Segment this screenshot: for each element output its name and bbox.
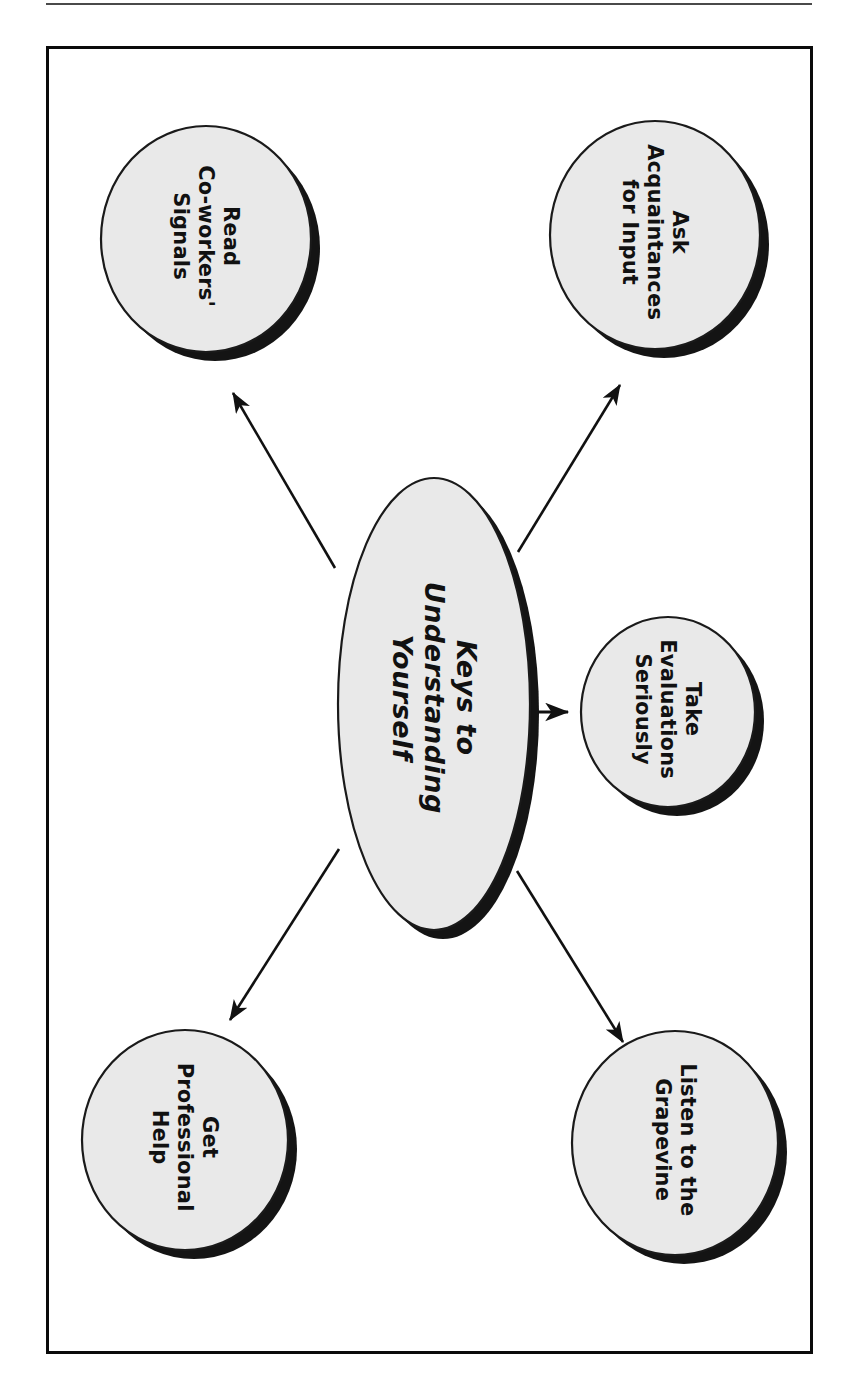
diagram-svg bbox=[0, 0, 848, 1398]
node-get-professional-help[interactable] bbox=[82, 1030, 288, 1250]
node-ellipses bbox=[82, 121, 778, 1255]
connector-center-to-ask-acquaintances-for-input bbox=[518, 385, 620, 552]
connector-center-to-listen-to-the-grapevine bbox=[517, 871, 623, 1042]
node-ask-acquaintances-for-input[interactable] bbox=[550, 121, 760, 349]
node-take-evaluations-seriously[interactable] bbox=[581, 617, 755, 807]
page-canvas: Read Co-workers' Signals Ask Acquaintanc… bbox=[0, 0, 848, 1398]
node-read-co-workers-signals[interactable] bbox=[101, 126, 311, 352]
node-listen-to-the-grapevine[interactable] bbox=[572, 1031, 778, 1255]
connector-center-to-read-co-workers-signals bbox=[233, 393, 335, 568]
connector-center-to-get-professional-help bbox=[230, 849, 339, 1020]
node-center-keys-to-understanding-yourself[interactable] bbox=[338, 478, 530, 930]
